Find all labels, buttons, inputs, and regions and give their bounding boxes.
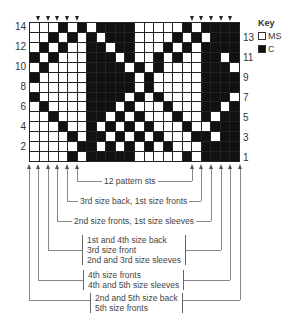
chart-cell [221,112,230,121]
bracket-line [240,169,241,300]
chart-cell [183,83,192,92]
chart-cell [68,132,77,141]
chart-cell [221,102,230,111]
chart-cell [97,152,106,161]
chart-cell [68,53,77,62]
chart-cell [59,122,68,131]
chart-cell [154,112,163,121]
chart-cell [59,132,68,141]
chart-cell [145,53,154,62]
top-arrow-icon [75,16,79,21]
chart-cell [164,112,173,121]
chart-cell [68,122,77,131]
chart-cell [30,152,39,161]
chart-cell [145,93,154,102]
chart-cell [116,43,125,52]
chart-cell [78,112,87,121]
chart-cell [230,132,239,141]
chart-cell [49,122,58,131]
chart-cell [40,102,49,111]
chart-cell [192,122,201,131]
chart-cell [192,63,201,72]
chart-cell [154,83,163,92]
chart-cell [125,112,134,121]
chart-cell [221,43,230,52]
chart-cell [78,23,87,32]
chart-cell [164,122,173,131]
chart-cell [135,63,144,72]
row-label-13: 13 [243,33,254,43]
chart-cell [154,63,163,72]
chart-cell [183,63,192,72]
chart-cell [154,142,163,151]
chart-cell [230,83,239,92]
chart-cell [230,63,239,72]
chart-cell [211,73,220,82]
chart-cell [49,112,58,121]
chart-cell [183,102,192,111]
chart-cell [145,112,154,121]
chart-cell [202,33,211,42]
chart-cell [192,33,201,42]
chart-cell [68,83,77,92]
bracket-line [221,169,222,250]
chart-cell [230,93,239,102]
chart-cell [202,112,211,121]
chart-cell [230,122,239,131]
chart-cell [30,63,39,72]
chart-cell [116,53,125,62]
chart-cell [145,102,154,111]
chart-cell [145,73,154,82]
chart-cell [230,152,239,161]
chart-cell [87,122,96,131]
chart-cell [30,23,39,32]
chart-cell [78,43,87,52]
chart-cell [211,53,220,62]
chart-cell [97,102,106,111]
row-label-6: 6 [14,102,26,112]
chart-cell [154,152,163,161]
chart-cell [125,122,134,131]
chart-cell [87,83,96,92]
chart-cell [30,33,39,42]
chart-cell [173,112,182,121]
row-label-4: 4 [14,122,26,132]
chart-cell [40,53,49,62]
ms-swatch-icon [258,32,266,40]
top-arrow-icon [209,16,213,21]
chart-cell [230,112,239,121]
label-2nd-5th-size-back: 2nd and 5th size back 5th size fronts [90,293,183,313]
chart-cell [59,23,68,32]
chart-cell [173,142,182,151]
chart-cell [49,63,58,72]
chart-cell [192,93,201,102]
chart-cell [116,73,125,82]
label-4th-size-fronts: 4th size fronts 4th and 5th size sleeves [83,270,184,290]
chart-cell [68,142,77,151]
chart-grid [29,22,240,162]
chart-cell [59,53,68,62]
chart-cell [135,142,144,151]
chart-cell [202,63,211,72]
chart-cell [116,132,125,141]
chart-cell [59,112,68,121]
chart-cell [192,112,201,121]
chart-cell [87,152,96,161]
chart-cell [202,53,211,62]
bracket-line [38,169,39,280]
chart-cell [192,43,201,52]
chart-cell [192,73,201,82]
chart-cell [97,53,106,62]
chart-cell [40,43,49,52]
chart-cell [97,33,106,42]
chart-cell [40,23,49,32]
chart-cell [49,152,58,161]
chart-cell [97,142,106,151]
chart-cell [135,152,144,161]
top-arrow-icon [36,16,40,21]
chart-cell [40,142,49,151]
chart-cell [106,33,115,42]
key-item-c: C [258,43,282,54]
chart-cell [40,112,49,121]
chart-cell [230,23,239,32]
